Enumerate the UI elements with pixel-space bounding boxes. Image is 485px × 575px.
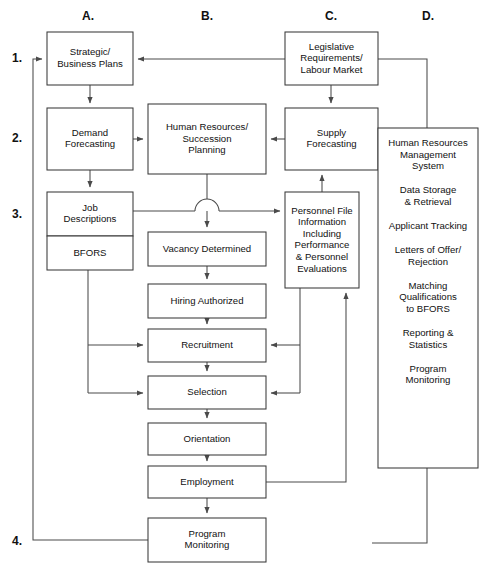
box-hiring-authorized: Hiring Authorized xyxy=(148,284,266,318)
box-bfors: BFORS xyxy=(47,236,133,270)
box-legislative-requirements-labour-market: LegislativeRequirements/Labour Market xyxy=(285,32,378,85)
box-selection: Selection xyxy=(148,376,266,409)
panel-item-0: Management xyxy=(400,149,456,160)
row-label-1: 1. xyxy=(12,51,22,65)
panel-item-1: Data Storage xyxy=(400,184,457,195)
panel-item-0: Human Resources xyxy=(388,137,468,148)
box-job-descriptions: JobDescriptions xyxy=(47,192,133,236)
box-supply-forecasting: SupplyForecasting xyxy=(285,108,378,170)
box-label-supply-forecasting: Supply xyxy=(317,127,347,138)
connector-hrms-to-bottom xyxy=(372,468,427,543)
row-label-2: 2. xyxy=(12,131,22,145)
hr-process-flowchart: Strategic/Business PlansDemandForecastin… xyxy=(0,0,485,575)
box-employment: Employment xyxy=(148,466,266,498)
box-label-job-descriptions: Job xyxy=(82,202,97,213)
box-label-bfors: BFORS xyxy=(73,247,106,258)
row-label-4: 4. xyxy=(12,534,22,548)
row-label-3: 3. xyxy=(12,207,22,221)
panel-item-3: Rejection xyxy=(408,256,448,267)
panel-item-6: Monitoring xyxy=(406,374,451,385)
box-label-personnel-file-information: Including xyxy=(303,228,341,239)
connector-employment-to-personnel-feedback xyxy=(266,293,346,482)
box-label-demand-forecasting: Demand xyxy=(72,127,108,138)
column-label-B: B. xyxy=(201,9,213,23)
box-label-personnel-file-information: & Personnel xyxy=(296,251,348,262)
hrms-panel-layer: Human ResourcesManagementSystemData Stor… xyxy=(378,128,478,468)
flowchart-canvas: Strategic/Business PlansDemandForecastin… xyxy=(0,0,485,575)
box-label-legislative-requirements-labour-market: Legislative xyxy=(309,41,354,52)
panel-item-0: System xyxy=(412,160,444,171)
box-label-supply-forecasting: Forecasting xyxy=(306,138,356,149)
box-program-monitoring: ProgramMonitoring xyxy=(148,518,266,562)
box-label-legislative-requirements-labour-market: Requirements/ xyxy=(300,52,363,63)
box-label-program-monitoring: Program xyxy=(189,528,226,539)
box-label-strategic-business-plans: Strategic/ xyxy=(70,46,111,57)
box-label-employment: Employment xyxy=(180,476,234,487)
box-strategic-business-plans: Strategic/Business Plans xyxy=(47,32,133,85)
column-label-A: A. xyxy=(82,9,94,23)
panel-item-4: Matching xyxy=(409,280,448,291)
box-label-strategic-business-plans: Business Plans xyxy=(57,58,123,69)
box-label-program-monitoring: Monitoring xyxy=(185,539,230,550)
box-label-legislative-requirements-labour-market: Labour Market xyxy=(301,64,363,75)
box-label-personnel-file-information: Performance xyxy=(295,239,350,250)
panel-item-5: Statistics xyxy=(409,339,448,350)
column-label-C: C. xyxy=(325,9,337,23)
box-label-job-descriptions: Descriptions xyxy=(64,213,117,224)
panel-human-resources-management-system: Human ResourcesManagementSystemData Stor… xyxy=(378,128,478,468)
box-vacancy-determined: Vacancy Determined xyxy=(148,232,266,266)
panel-item-6: Program xyxy=(410,363,447,374)
column-label-D: D. xyxy=(422,9,434,23)
box-label-hiring-authorized: Hiring Authorized xyxy=(170,295,243,306)
box-label-recruitment: Recruitment xyxy=(181,339,233,350)
box-label-orientation: Orientation xyxy=(184,433,231,444)
panel-item-1: & Retrieval xyxy=(405,196,452,207)
panel-item-4: Qualifications xyxy=(399,291,457,302)
box-human-resources-succession-planning: Human Resources/SuccessionPlanning xyxy=(148,104,266,174)
box-label-selection: Selection xyxy=(187,386,226,397)
panel-item-5: Reporting & xyxy=(403,327,454,338)
connector-line-jump-arc xyxy=(195,199,219,211)
box-label-vacancy-determined: Vacancy Determined xyxy=(163,243,251,254)
box-label-human-resources-succession-planning: Human Resources/ xyxy=(166,121,248,132)
box-demand-forecasting: DemandForecasting xyxy=(47,108,133,170)
box-label-personnel-file-information: Personnel File xyxy=(291,205,352,216)
panel-item-3: Letters of Offer/ xyxy=(395,244,462,255)
panel-item-2: Applicant Tracking xyxy=(389,220,467,231)
box-personnel-file-information: Personnel FileInformationIncludingPerfor… xyxy=(285,192,359,288)
box-label-personnel-file-information: Information xyxy=(298,216,346,227)
box-label-human-resources-succession-planning: Succession xyxy=(182,133,231,144)
box-label-demand-forecasting: Forecasting xyxy=(65,138,115,149)
box-label-personnel-file-information: Evaluations xyxy=(297,263,347,274)
connector-legislative-to-hrms xyxy=(378,59,427,128)
panel-item-4: to BFORS xyxy=(406,303,450,314)
box-orientation: Orientation xyxy=(148,423,266,455)
box-label-human-resources-succession-planning: Planning xyxy=(188,144,225,155)
box-recruitment: Recruitment xyxy=(148,329,266,362)
